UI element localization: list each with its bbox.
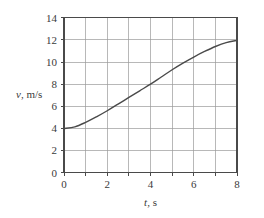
y-tick-label: 6 — [52, 100, 58, 112]
y-tick-label: 12 — [46, 34, 57, 46]
velocity-time-chart-figure: 0 2 4 6 8 10 12 14 0 2 4 6 8 v, m/s t, s — [0, 0, 264, 218]
y-axis-title: v, m/s — [16, 88, 42, 100]
x-tick-label: 2 — [105, 178, 111, 190]
y-tick-labels: 0 2 4 6 8 10 12 14 — [46, 12, 58, 179]
y-tick-label: 14 — [46, 12, 58, 24]
y-tick-label: 0 — [52, 167, 58, 179]
x-tick-label: 4 — [148, 178, 154, 190]
y-tick-label: 4 — [52, 122, 58, 134]
x-axis-title: t, s — [144, 196, 157, 208]
chart-svg: 0 2 4 6 8 10 12 14 0 2 4 6 8 v, m/s t, s — [0, 0, 264, 218]
y-tick-label: 2 — [52, 144, 58, 156]
x-tick-label: 8 — [234, 178, 240, 190]
x-tick-labels: 0 2 4 6 8 — [61, 178, 240, 190]
y-tick-label: 8 — [52, 78, 58, 90]
x-axis-title-unit: , s — [147, 196, 157, 208]
grid-lines — [64, 18, 237, 173]
y-tick-label: 10 — [46, 56, 58, 68]
y-axis-title-unit: , m/s — [21, 88, 42, 100]
x-tick-label: 6 — [191, 178, 197, 190]
x-tick-label: 0 — [61, 178, 67, 190]
